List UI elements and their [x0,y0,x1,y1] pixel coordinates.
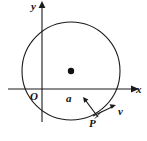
acceleration-vector-label: a [66,93,72,104]
point-p-label: P [89,118,96,129]
velocity-vector [93,104,116,116]
circular-motion-figure: y x O a v P [0,0,147,141]
acceleration-vector [83,97,98,117]
x-axis [8,86,139,93]
velocity-vector-label: v [118,106,123,117]
acceleration-vector-arrowhead [83,97,88,103]
circle-center-dot [68,68,74,74]
y-axis-label: y [31,1,36,12]
y-axis-arrowhead [39,1,46,8]
figure-canvas [0,0,147,141]
origin-label: O [30,91,38,102]
x-axis-label: x [136,84,142,95]
y-axis [39,1,46,122]
